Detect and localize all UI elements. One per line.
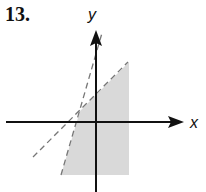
graph: x y [0,0,206,192]
y-axis-label: y [87,6,97,23]
x-axis-label: x [189,114,199,131]
